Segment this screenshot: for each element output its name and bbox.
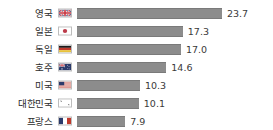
- bar-area: 23.7: [77, 4, 273, 22]
- flag-australia-icon: [58, 63, 72, 72]
- value-label-uk: 23.7: [227, 8, 248, 19]
- bar-australia: [77, 62, 166, 73]
- chart-row: 호주 14.6: [0, 58, 273, 76]
- category-label-usa: 미국: [0, 80, 53, 91]
- value-label-australia: 14.6: [171, 62, 192, 73]
- category-label-australia: 호주: [0, 62, 53, 73]
- category-label-germany: 독일: [0, 44, 53, 55]
- bar-area: 10.3: [77, 76, 273, 94]
- flag-united-kingdom-icon: [58, 9, 72, 18]
- flag-south-korea-icon: [58, 99, 72, 108]
- bar-germany: [77, 44, 181, 55]
- bar-japan: [77, 26, 183, 37]
- bar-area: 17.3: [77, 22, 273, 40]
- bar-usa: [77, 80, 140, 91]
- chart-row: 영국 23.7: [0, 4, 273, 22]
- chart-row: 미국 10.3: [0, 76, 273, 94]
- category-label-france: 프랑스: [0, 116, 53, 127]
- bar-area: 7.9: [77, 112, 273, 130]
- flag-united-states-icon: [58, 81, 72, 90]
- value-label-usa: 10.3: [145, 80, 166, 91]
- bar-area: 10.1: [77, 94, 273, 112]
- bar-south-korea: [77, 98, 139, 109]
- category-label-uk: 영국: [0, 8, 53, 19]
- value-label-france: 7.9: [130, 116, 145, 127]
- chart-row: 독일 17.0: [0, 40, 273, 58]
- chart-row: 프랑스 7.9: [0, 112, 273, 130]
- flag-japan-icon: [58, 27, 72, 36]
- flag-france-icon: [58, 117, 72, 126]
- category-label-south-korea: 대한민국: [0, 98, 53, 109]
- category-label-japan: 일본: [0, 26, 53, 37]
- horizontal-bar-chart: 영국 23.7 일본 17.3 독일: [0, 0, 273, 130]
- value-label-germany: 17.0: [186, 44, 207, 55]
- bar-uk: [77, 8, 222, 19]
- chart-row: 대한민국 10.1: [0, 94, 273, 112]
- bar-area: 17.0: [77, 40, 273, 58]
- flag-germany-icon: [58, 45, 72, 54]
- value-label-japan: 17.3: [188, 26, 209, 37]
- chart-row: 일본 17.3: [0, 22, 273, 40]
- bar-france: [77, 116, 125, 127]
- bar-area: 14.6: [77, 58, 273, 76]
- value-label-south-korea: 10.1: [144, 98, 165, 109]
